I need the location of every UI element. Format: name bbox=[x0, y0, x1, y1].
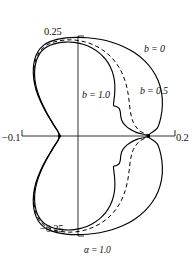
figure-canvas bbox=[0, 0, 195, 270]
curve-label-b-0: b = 0 bbox=[144, 44, 165, 54]
parameter-label-alpha: α = 1.0 bbox=[84, 246, 111, 256]
x-axis-max-label: 0.2 bbox=[176, 133, 189, 144]
curve-label-b-1-0: b = 1.0 bbox=[82, 90, 110, 100]
y-axis-max-label: 0.25 bbox=[44, 27, 62, 38]
y-axis-min-label: −0.25 bbox=[40, 224, 63, 235]
curve-label-b-0-5: b = 0.5 bbox=[140, 86, 168, 96]
node-marker-right bbox=[146, 134, 150, 138]
node-marker-left bbox=[58, 134, 61, 137]
x-axis-min-label: −0.1 bbox=[2, 133, 20, 144]
axes-group bbox=[22, 36, 175, 236]
